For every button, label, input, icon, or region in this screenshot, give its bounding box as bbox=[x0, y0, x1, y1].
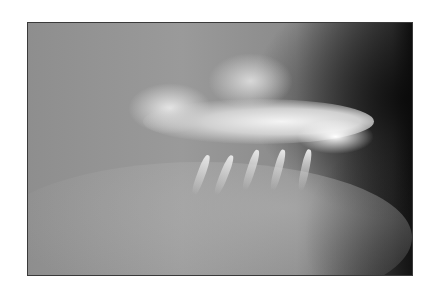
xray-image bbox=[27, 22, 413, 276]
